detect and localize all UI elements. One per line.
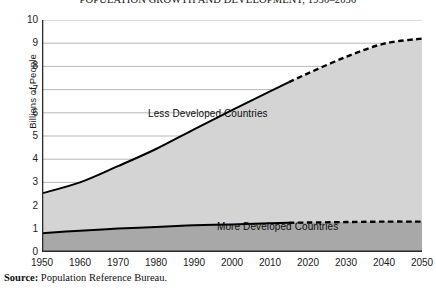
y-tick-label: 5 [4,130,38,142]
x-axis-ticks: 1950196019701980199020002010202020302040… [42,256,422,272]
area-band [42,39,422,252]
series-label-more-developed-countries: More Developed Countries [217,221,338,232]
source-note: Source: Population Reference Bureau. [4,272,167,283]
x-tick-label: 1980 [136,256,176,269]
x-tick-label: 1950 [22,256,62,269]
x-tick-label: 2040 [364,256,404,269]
x-tick-label: 2050 [402,256,436,269]
y-tick-label: 10 [4,14,38,26]
y-tick-label: 4 [4,153,38,165]
stacked-area-chart [42,20,422,252]
y-tick-label: 3 [4,176,38,188]
x-tick-label: 2000 [212,256,252,269]
plot-area: Less Developed Countries More Developed … [42,20,422,252]
y-tick-label: 1 [4,223,38,235]
x-tick-label: 1970 [98,256,138,269]
x-tick-label: 2030 [326,256,366,269]
source-text: Population Reference Bureau. [38,272,167,283]
x-tick-label: 1990 [174,256,214,269]
area-fills [42,39,422,252]
y-tick-label: 2 [4,200,38,212]
x-tick-label: 2020 [288,256,328,269]
x-tick-label: 2010 [250,256,290,269]
y-tick-label: 7 [4,84,38,96]
source-label: Source: [4,272,38,283]
y-tick-label: 6 [4,107,38,119]
y-tick-label: 9 [4,37,38,49]
y-tick-label: 8 [4,60,38,72]
x-tick-label: 1960 [60,256,100,269]
y-axis-ticks: 012345678910 [0,20,38,252]
chart-title: POPULATION GROWTH AND DEVELOPMENT, 1950–… [0,0,436,6]
series-label-less-developed-countries: Less Developed Countries [148,108,268,119]
